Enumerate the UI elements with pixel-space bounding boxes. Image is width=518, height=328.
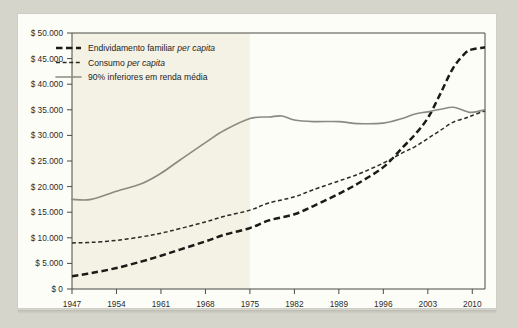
chart-screenshot-root: $ 0$ 5.000$ 10.000$ 15.000$ 20.000$ 25.0… <box>0 0 518 328</box>
legend-label-1: Endividamento familiar per capita <box>88 43 215 53</box>
x-tick-label: 1954 <box>107 299 126 309</box>
y-tick-label: $ 35.000 <box>31 105 64 115</box>
x-tick-label: 1982 <box>285 299 304 309</box>
y-tick-label: $ 50.000 <box>31 28 64 38</box>
x-tick-label: 1961 <box>152 299 171 309</box>
x-tick-label: 1947 <box>63 299 82 309</box>
y-tick-label: $ 0 <box>51 284 63 294</box>
x-tick-label: 1968 <box>196 299 215 309</box>
x-axis: 1947195419611968197519821989199620032010 <box>63 289 482 309</box>
legend-label-3: 90% inferiores em renda média <box>88 72 208 82</box>
line-chart: $ 0$ 5.000$ 10.000$ 15.000$ 20.000$ 25.0… <box>18 14 496 310</box>
y-tick-label: $ 15.000 <box>31 207 64 217</box>
y-tick-label: $ 30.000 <box>31 130 64 140</box>
y-tick-label: $ 20.000 <box>31 182 64 192</box>
y-tick-label: $ 10.000 <box>31 233 64 243</box>
y-axis: $ 0$ 5.000$ 10.000$ 15.000$ 20.000$ 25.0… <box>31 28 72 294</box>
x-tick-label: 1975 <box>241 299 260 309</box>
x-tick-label: 2010 <box>463 299 482 309</box>
x-tick-label: 2003 <box>419 299 438 309</box>
x-tick-label: 1996 <box>374 299 393 309</box>
y-tick-label: $ 25.000 <box>31 156 64 166</box>
y-tick-label: $ 5.000 <box>35 258 63 268</box>
legend-label-2: Consumo per capita <box>88 58 165 68</box>
y-tick-label: $ 40.000 <box>31 79 64 89</box>
x-tick-label: 1989 <box>330 299 349 309</box>
